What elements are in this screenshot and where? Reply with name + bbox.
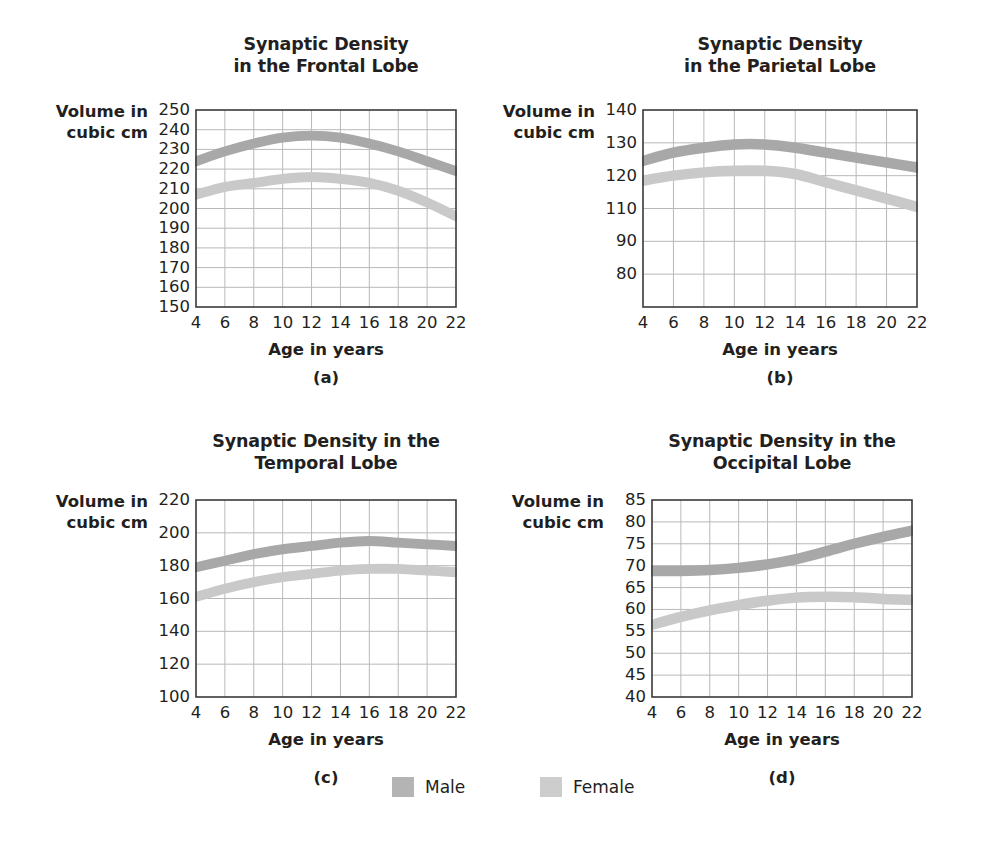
- synaptic-density-figure: Synaptic Densityin the Frontal LobeVolum…: [0, 0, 988, 855]
- y-tick-occipital-65: 65: [590, 580, 646, 597]
- legend-entry-male: Male: [392, 777, 465, 797]
- y-axis-label-occipital: Volume in cubic cm: [494, 491, 604, 534]
- legend-label-female: Female: [573, 777, 634, 797]
- y-tick-occipital-40: 40: [590, 689, 646, 706]
- y-tick-occipital-60: 60: [590, 601, 646, 618]
- y-tick-occipital-85: 85: [590, 492, 646, 509]
- female-swatch: [540, 777, 562, 797]
- chart-title-line2: Occipital Lobe: [622, 452, 942, 474]
- y-tick-occipital-70: 70: [590, 558, 646, 575]
- chart-title-occipital: Synaptic Density in theOccipital Lobe: [622, 430, 942, 475]
- legend-entry-female: Female: [540, 777, 634, 797]
- y-tick-occipital-80: 80: [590, 514, 646, 531]
- y-tick-occipital-50: 50: [590, 645, 646, 662]
- x-axis-label-occipital: Age in years: [652, 730, 912, 749]
- series-band-male: [652, 531, 912, 571]
- legend-label-male: Male: [425, 777, 465, 797]
- y-tick-occipital-55: 55: [590, 623, 646, 640]
- x-tick-occipital-22: 22: [892, 705, 932, 722]
- male-swatch: [392, 777, 414, 797]
- series-band-female: [652, 597, 912, 625]
- chart-panel-occipital: Synaptic Density in theOccipital LobeVol…: [0, 0, 988, 855]
- panel-letter-occipital: (d): [652, 768, 912, 787]
- y-tick-occipital-45: 45: [590, 667, 646, 684]
- y-tick-occipital-75: 75: [590, 536, 646, 553]
- chart-title-line1: Synaptic Density in the: [622, 430, 942, 452]
- plot-area-occipital: [651, 499, 913, 698]
